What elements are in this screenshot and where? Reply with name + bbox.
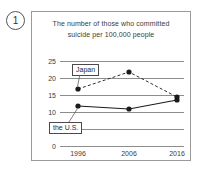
x-tick-1996: 1996 [70,150,86,157]
item-number-label: 1 [13,16,19,26]
x-tick-2016: 2016 [169,150,185,157]
x-axis: 1996 2006 2016 [60,12,184,162]
plot-area: 0 5 10 15 20 25 [32,12,192,162]
x-tick-2006: 2006 [121,150,137,157]
chart-figure-panel: The number of those who committed suicid… [31,11,191,161]
item-number-badge: 1 [6,11,25,30]
